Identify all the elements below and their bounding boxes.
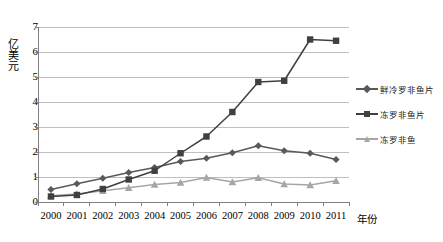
x-axis-tick: 2001 bbox=[63, 211, 91, 222]
legend-label: 鲜冷罗非鱼片 bbox=[380, 83, 434, 95]
legend-swatch-triangle-icon bbox=[356, 134, 378, 144]
x-axis-tick: 2010 bbox=[296, 211, 324, 222]
legend-label: 冻罗非鱼片 bbox=[380, 108, 425, 120]
x-axis-tick: 2002 bbox=[89, 211, 117, 222]
x-axis-tick: 2007 bbox=[218, 211, 246, 222]
x-axis-tick: 2004 bbox=[141, 211, 169, 222]
legend-item-2[interactable]: 冻罗非鱼片 bbox=[356, 101, 443, 126]
legend-swatch-diamond-icon bbox=[356, 84, 378, 94]
legend-swatch-square-icon bbox=[356, 109, 378, 119]
legend-label: 冻罗非鱼 bbox=[380, 133, 416, 145]
x-axis-tick: 2006 bbox=[192, 211, 220, 222]
legend-item-1[interactable]: 鲜冷罗非鱼片 bbox=[356, 76, 443, 101]
x-axis-tick: 2008 bbox=[244, 211, 272, 222]
chart-legend: 鲜冷罗非鱼片冻罗非鱼片冻罗非鱼 bbox=[356, 76, 443, 151]
legend-item-3[interactable]: 冻罗非鱼 bbox=[356, 126, 443, 151]
x-axis-tick: 2011 bbox=[322, 211, 350, 222]
x-axis-tick: 2000 bbox=[37, 211, 65, 222]
x-axis-label: 年份 bbox=[357, 211, 377, 226]
chart-container: 亿美元 01234567 200020012002200320042005200… bbox=[0, 0, 443, 242]
x-axis-tick: 2005 bbox=[167, 211, 195, 222]
x-axis-tick: 2009 bbox=[270, 211, 298, 222]
x-axis-tick: 2003 bbox=[115, 211, 143, 222]
